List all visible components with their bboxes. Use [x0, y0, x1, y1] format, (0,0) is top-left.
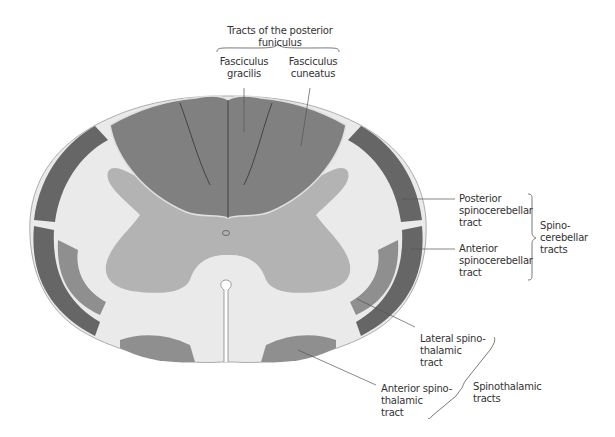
label-spinothalamic-tracts: Spinothalamic tracts — [473, 381, 542, 405]
label-fasciculus-cuneatus: Fasciculus cuneatus — [283, 56, 343, 80]
label-spinocerebellar-tracts: Spino- cerebellar tracts — [540, 220, 588, 256]
leader-anterior-spinothalamic — [298, 350, 376, 385]
label-anterior-spinothalamic: Anterior spino- thalamic tract — [381, 383, 452, 419]
label-anterior-spinocerebellar: Anterior spinocerebellar tract — [459, 243, 533, 279]
label-lateral-spinothalamic: Lateral spino- thalamic tract — [420, 333, 486, 369]
posterior-funiculus-title: Tracts of the posterior funiculus — [205, 25, 355, 49]
label-fasciculus-gracilis: Fasciculus gracilis — [214, 56, 274, 80]
label-posterior-spinocerebellar: Posterior spinocerebellar tract — [459, 193, 533, 229]
